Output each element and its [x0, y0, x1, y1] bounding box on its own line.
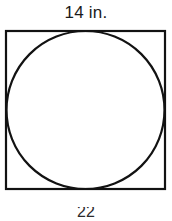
square-with-inscribed-circle-diagram: [0, 0, 172, 221]
bottom-clipped-caption: 22: [0, 207, 172, 221]
geometry-figure-canvas: 14 in. 22: [0, 0, 172, 221]
inscribed-circle-outline: [7, 31, 165, 189]
bottom-caption-text: 22: [77, 207, 95, 221]
